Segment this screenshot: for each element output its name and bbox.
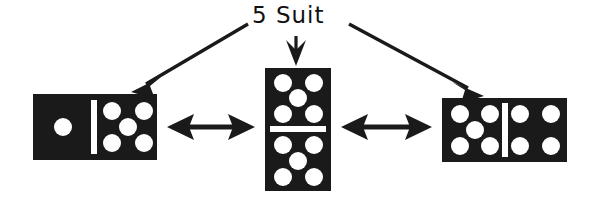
arrow-shaft (349, 24, 468, 88)
pip (289, 89, 307, 107)
pip (135, 134, 153, 152)
pip (103, 102, 121, 120)
pip (274, 105, 292, 123)
label-arrow-to-right-domino (349, 24, 484, 103)
domino-5-5[interactable] (265, 68, 331, 191)
pip (119, 118, 137, 136)
suit-label: 5 Suit (252, 4, 325, 27)
pip (305, 136, 323, 154)
double-arrow-left-center (167, 114, 255, 140)
domino-1-5-divider (91, 100, 97, 154)
pip (305, 74, 323, 92)
pip (289, 152, 307, 170)
pip (135, 102, 153, 120)
arrow-shaft (146, 24, 248, 84)
pip (274, 136, 292, 154)
pip (481, 105, 499, 123)
domino-diagram: 5 Suit (0, 0, 592, 203)
pip (274, 74, 292, 92)
domino-5-5-divider (270, 126, 326, 132)
pip (451, 105, 469, 123)
pip (305, 105, 323, 123)
pip (542, 105, 560, 123)
pip (511, 137, 529, 155)
diagram-canvas (0, 0, 592, 203)
pip (542, 137, 560, 155)
double-arrow-center-right (341, 114, 432, 140)
domino-1-5-half-left-pips (54, 118, 72, 136)
pip (511, 105, 529, 123)
pip (466, 121, 484, 139)
domino-5-4[interactable] (442, 98, 567, 162)
label-arrow-to-center-domino (286, 36, 306, 66)
label-arrow-to-left-domino (131, 24, 248, 99)
pip (451, 137, 469, 155)
pip (54, 118, 72, 136)
pip (274, 168, 292, 186)
pip (103, 134, 121, 152)
domino-5-4-divider (502, 103, 508, 157)
pip (481, 137, 499, 155)
pip (305, 168, 323, 186)
domino-1-5[interactable] (33, 94, 157, 160)
